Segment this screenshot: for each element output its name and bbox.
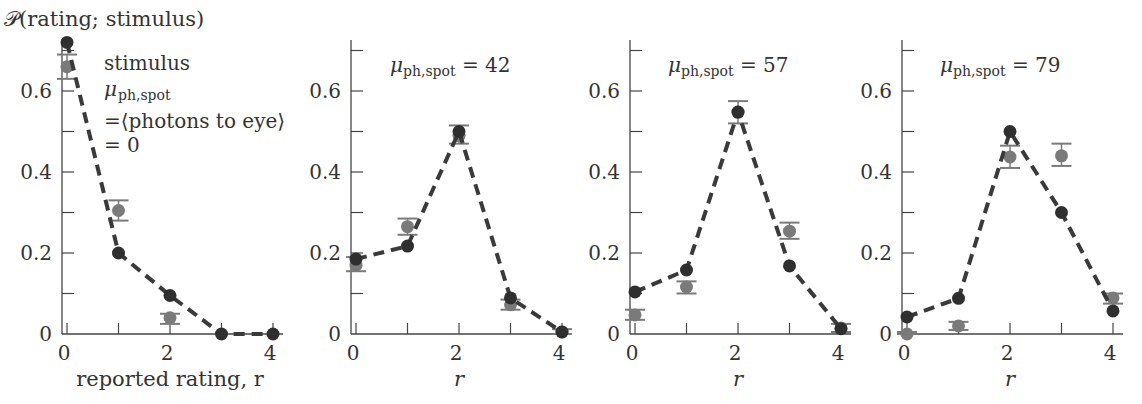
- data-point: [629, 308, 642, 321]
- panel-title-value: = 57: [740, 53, 789, 77]
- data-point: [112, 204, 125, 217]
- model-dashed-line: [356, 132, 562, 332]
- model-point: [164, 289, 177, 302]
- data-point-with-error-bar: [677, 281, 697, 294]
- panel-title-value: = 42: [462, 53, 511, 77]
- y-tick-label: 0.6: [309, 79, 341, 103]
- model-point: [1004, 125, 1017, 138]
- model-point: [901, 310, 914, 323]
- y-tick-label: 0.2: [588, 241, 620, 265]
- y-tick-label: 0: [328, 322, 341, 346]
- y-tick-label: 0: [39, 322, 52, 346]
- y-tick-label: 0.6: [860, 79, 892, 103]
- y-tick-label: 0.6: [588, 79, 620, 103]
- data-point-with-error-bar: [625, 308, 645, 321]
- model-dashed-line: [635, 112, 841, 329]
- y-tick-label: 0.2: [860, 241, 892, 265]
- model-point: [556, 325, 569, 338]
- panel-title-value: = 79: [1012, 53, 1061, 77]
- x-tick-label: 2: [729, 341, 742, 365]
- panel-title-mu: μ: [668, 53, 681, 77]
- data-point-with-error-bar: [897, 328, 917, 341]
- model-point: [267, 328, 280, 341]
- data-point: [401, 220, 414, 233]
- y-tick-label: 0.2: [20, 241, 52, 265]
- model-point: [732, 106, 745, 119]
- y-tick-label: 0.4: [588, 160, 620, 184]
- data-point: [783, 225, 796, 238]
- x-tick-label: 2: [1001, 341, 1014, 365]
- y-tick-label: 0.4: [20, 160, 52, 184]
- x-tick-label: 2: [450, 341, 463, 365]
- model-point: [61, 36, 74, 49]
- data-point-with-error-bar: [160, 311, 180, 324]
- data-point: [1055, 149, 1068, 162]
- annotation-mu: μ: [104, 77, 117, 101]
- panel-1: 00.20.40.6024reported rating, rstimulusμ…: [20, 36, 285, 391]
- x-tick-label: 0: [347, 341, 360, 365]
- model-point: [504, 291, 517, 304]
- y-tick-label: 0.4: [860, 160, 892, 184]
- model-point: [112, 247, 125, 260]
- chart-figure: 𝒫(rating; stimulus) 00.20.40.6024reporte…: [0, 0, 1142, 404]
- x-axis-title: r: [454, 367, 466, 391]
- model-point: [1055, 206, 1068, 219]
- panel-title-subscript: ph,spot: [953, 63, 1006, 79]
- y-tick-label: 0: [607, 322, 620, 346]
- model-point: [952, 292, 965, 305]
- data-point: [901, 328, 914, 341]
- model-point: [401, 240, 414, 253]
- panel-title-subscript: ph,spot: [681, 63, 734, 79]
- x-tick-label: 4: [264, 341, 277, 365]
- x-tick-label: 0: [898, 341, 911, 365]
- data-point-with-error-bar: [949, 319, 969, 332]
- panel-title-mu: μ: [390, 53, 403, 77]
- model-point: [215, 328, 228, 341]
- x-tick-label: 0: [626, 341, 639, 365]
- model-point: [680, 264, 693, 277]
- annotation-stimulus: stimulus: [104, 51, 190, 75]
- model-point: [835, 322, 848, 335]
- annotation-mu-subscript: ph,spot: [118, 87, 171, 103]
- data-point: [164, 311, 177, 324]
- data-point: [952, 319, 965, 332]
- panel-title-mu: μ: [940, 53, 953, 77]
- panel-4: 00.20.40.6024rμph,spot= 79: [860, 40, 1123, 391]
- x-tick-label: 4: [1104, 341, 1117, 365]
- data-point-with-error-bar: [1052, 144, 1072, 166]
- data-point: [680, 281, 693, 294]
- annotation-photons: =⟨photons to eye⟩: [104, 109, 285, 133]
- y-tick-label: 0.2: [309, 241, 341, 265]
- x-tick-label: 4: [553, 341, 566, 365]
- y-tick-label: 0.6: [20, 79, 52, 103]
- panel-title-subscript: ph,spot: [403, 63, 456, 79]
- model-point: [1107, 304, 1120, 317]
- model-point: [629, 285, 642, 298]
- x-tick-label: 0: [58, 341, 71, 365]
- y-tick-label: 0.4: [309, 160, 341, 184]
- y-axis-title: 𝒫(rating; stimulus): [4, 7, 204, 31]
- x-axis-title: reported rating, r: [76, 367, 265, 391]
- annotation-zero: = 0: [104, 133, 140, 157]
- model-point: [783, 259, 796, 272]
- x-tick-label: 4: [832, 341, 845, 365]
- x-axis-title: r: [733, 367, 745, 391]
- model-point: [453, 125, 466, 138]
- x-tick-label: 2: [161, 341, 174, 365]
- panel-2: 00.20.40.6024rμph,spot= 42: [309, 40, 572, 391]
- data-point-with-error-bar: [780, 223, 800, 239]
- panel-3: 00.20.40.6024rμph,spot= 57: [588, 40, 851, 391]
- y-tick-label: 0: [879, 322, 892, 346]
- model-point: [350, 253, 363, 266]
- x-axis-title: r: [1005, 367, 1017, 391]
